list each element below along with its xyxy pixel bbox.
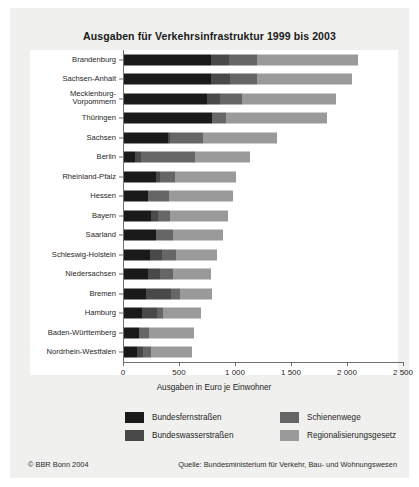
bar-segment bbox=[212, 113, 225, 124]
bar-segment bbox=[124, 152, 135, 163]
bar-category-label: Rheinland-Pfalz bbox=[6, 172, 116, 181]
y-tick-mark bbox=[119, 176, 123, 177]
bar-row: Saarland bbox=[30, 226, 398, 246]
bar-category-label: Niedersachsen bbox=[6, 270, 116, 279]
bar-segment bbox=[124, 249, 150, 260]
x-tick-mark bbox=[179, 362, 180, 366]
stacked-bar bbox=[124, 54, 358, 65]
stacked-bar bbox=[124, 327, 194, 338]
x-tick-mark bbox=[123, 362, 124, 366]
stacked-bar bbox=[124, 74, 352, 85]
bar-segment bbox=[142, 308, 157, 319]
bar-row: Bayern bbox=[30, 206, 398, 226]
bar-category-label: Schleswig-Holstein bbox=[6, 250, 116, 259]
bar-segment bbox=[150, 249, 162, 260]
x-tick-mark bbox=[347, 362, 348, 366]
legend-item[interactable]: Bundeswasserstraßen bbox=[125, 430, 233, 441]
bar-segment bbox=[151, 210, 158, 221]
bar-segment bbox=[162, 249, 175, 260]
stacked-bar bbox=[124, 210, 228, 221]
bar-segment bbox=[160, 269, 172, 280]
bar-segment bbox=[124, 54, 211, 65]
bar-segment bbox=[171, 288, 180, 299]
bar-row: Brandenburg bbox=[30, 50, 398, 70]
y-tick-mark bbox=[119, 293, 123, 294]
bar-category-label: Thüringen bbox=[6, 114, 116, 123]
bar-category-label: Baden-Württemberg bbox=[6, 328, 116, 337]
bar-segment bbox=[169, 191, 233, 202]
bar-category-label: Hessen bbox=[6, 192, 116, 201]
bar-segment bbox=[124, 113, 212, 124]
bar-segment bbox=[230, 74, 256, 85]
legend-item[interactable]: Schienenwege bbox=[280, 412, 361, 423]
bar-category-label: Sachsen bbox=[6, 133, 116, 142]
bar-segment bbox=[220, 93, 242, 104]
bar-segment bbox=[211, 74, 231, 85]
x-tick-mark bbox=[403, 362, 404, 366]
bar-segment bbox=[124, 171, 156, 182]
y-tick-mark bbox=[119, 196, 123, 197]
bar-category-label: Brandenburg bbox=[6, 55, 116, 64]
stacked-bar bbox=[124, 191, 233, 202]
legend-swatch bbox=[125, 412, 144, 423]
y-tick-mark bbox=[119, 215, 123, 216]
legend-item[interactable]: Regionalisierungsgesetz bbox=[280, 430, 396, 441]
bar-segment bbox=[148, 269, 160, 280]
y-tick-mark bbox=[119, 235, 123, 236]
stacked-bar bbox=[124, 230, 223, 241]
x-tick-label: 0 bbox=[121, 368, 125, 377]
bar-segment bbox=[141, 152, 195, 163]
bar-segment bbox=[229, 54, 257, 65]
chart-figure: Ausgaben für Verkehrsinfrastruktur 1999 … bbox=[10, 8, 409, 478]
x-tick-mark bbox=[291, 362, 292, 366]
legend-item[interactable]: Bundesfernstraßen bbox=[125, 412, 222, 423]
bar-segment bbox=[146, 288, 171, 299]
stacked-bar bbox=[124, 249, 217, 260]
bar-segment bbox=[135, 152, 142, 163]
bar-row: Baden-Württemberg bbox=[30, 323, 398, 343]
bar-segment bbox=[149, 327, 194, 338]
bar-segment bbox=[148, 191, 169, 202]
stacked-bar bbox=[124, 113, 327, 124]
y-tick-mark bbox=[119, 59, 123, 60]
bar-segment bbox=[242, 93, 336, 104]
bar-segment bbox=[124, 327, 139, 338]
legend-label: Bundeswasserstraßen bbox=[152, 431, 233, 440]
bar-segment bbox=[160, 171, 175, 182]
x-tick-label: 500 bbox=[172, 368, 185, 377]
bar-row: Hessen bbox=[30, 187, 398, 207]
stacked-bar bbox=[124, 152, 250, 163]
legend-label: Schienenwege bbox=[307, 413, 361, 422]
bar-category-label: Berlin bbox=[6, 153, 116, 162]
bar-row: Sachsen bbox=[30, 128, 398, 148]
bar-segment bbox=[226, 113, 327, 124]
bar-segment bbox=[156, 230, 172, 241]
bar-category-label: Nordrhein-Westfalen bbox=[6, 348, 116, 357]
bar-segment bbox=[151, 347, 192, 358]
y-tick-mark bbox=[119, 137, 123, 138]
bar-segment bbox=[158, 210, 170, 221]
bar-segment bbox=[124, 191, 148, 202]
y-tick-mark bbox=[119, 352, 123, 353]
stacked-bar bbox=[124, 269, 211, 280]
bar-segment bbox=[124, 74, 211, 85]
bar-row: Bremen bbox=[30, 284, 398, 304]
plot-area: BrandenburgSachsen-AnhaltMecklenburg- Vo… bbox=[30, 50, 398, 375]
bar-row: Thüringen bbox=[30, 109, 398, 129]
bar-segment bbox=[180, 288, 212, 299]
bar-row: Nordrhein-Westfalen bbox=[30, 343, 398, 363]
stacked-bar bbox=[124, 171, 236, 182]
x-tick-mark bbox=[235, 362, 236, 366]
y-tick-mark bbox=[119, 79, 123, 80]
source-note: Quelle: Bundesministerium für Verkehr, B… bbox=[178, 460, 397, 469]
y-tick-mark bbox=[119, 332, 123, 333]
bar-row: Schleswig-Holstein bbox=[30, 245, 398, 265]
bar-category-label: Bayern bbox=[6, 211, 116, 220]
x-axis-title: Ausgaben in Euro je Einwohner bbox=[30, 383, 398, 392]
bar-segment bbox=[211, 54, 228, 65]
y-tick-mark bbox=[119, 274, 123, 275]
stacked-bar bbox=[124, 93, 336, 104]
bar-segment bbox=[124, 93, 207, 104]
legend-label: Regionalisierungsgesetz bbox=[307, 431, 396, 440]
y-tick-mark bbox=[119, 157, 123, 158]
